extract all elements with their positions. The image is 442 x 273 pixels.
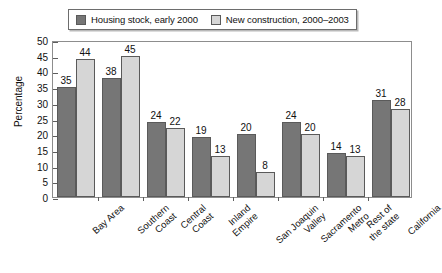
- bar-housing-stock: [372, 100, 391, 197]
- legend-label-new-construction: New construction, 2000–2003: [226, 14, 349, 25]
- y-axis-title: Percentage: [13, 62, 24, 142]
- x-axis-label: Bay Area: [90, 202, 126, 236]
- bar-new-construction: [391, 109, 410, 197]
- x-axis-label: California: [405, 202, 442, 237]
- x-axis-label: SouthernCoast: [135, 202, 178, 244]
- x-axis-label: Rest ofthe state: [359, 202, 401, 243]
- bar-item: 35: [57, 87, 76, 197]
- x-axis-category-labels: Bay AreaSouthernCoastCentralCoastInlandE…: [52, 200, 412, 272]
- bar-item: 14: [327, 153, 346, 197]
- bar-group: 3128: [368, 100, 413, 197]
- y-tick-label: 50: [27, 36, 48, 47]
- bar-item: 22: [166, 128, 185, 197]
- bar-item: 45: [121, 56, 140, 197]
- bar-housing-stock: [192, 137, 211, 197]
- bar-item: 28: [391, 109, 410, 197]
- bar-value-label: 44: [76, 47, 95, 58]
- bar-item: 13: [211, 156, 230, 197]
- legend-entry-housing-stock: Housing stock, early 2000: [76, 14, 198, 25]
- y-tick-label: 15: [27, 146, 48, 157]
- bar-item: 19: [192, 137, 211, 197]
- bar-value-label: 35: [57, 75, 76, 86]
- bar-value-label: 20: [301, 122, 320, 133]
- bar-housing-stock: [327, 153, 346, 197]
- y-tick-label: 0: [27, 193, 48, 204]
- bar-new-construction: [166, 128, 185, 197]
- bar-group: 2420: [278, 122, 323, 197]
- y-tick-label: 40: [27, 67, 48, 78]
- y-tick-label: 20: [27, 130, 48, 141]
- bar-new-construction: [346, 156, 365, 197]
- x-axis-label: San JoaquinValley: [273, 202, 327, 254]
- bar-item: 8: [256, 172, 275, 197]
- bar-value-label: 14: [327, 141, 346, 152]
- y-tick-label: 25: [27, 115, 48, 126]
- bar-item: 24: [282, 122, 301, 197]
- bar-new-construction: [76, 59, 95, 197]
- x-axis-label: InlandEmpire: [223, 202, 260, 238]
- bar-value-label: 22: [166, 116, 185, 127]
- bar-value-label: 13: [346, 144, 365, 155]
- bar-new-construction: [301, 134, 320, 197]
- bar-value-label: 20: [237, 122, 256, 133]
- y-tick-label: 45: [27, 52, 48, 63]
- bar-item: 20: [301, 134, 320, 197]
- bar-value-label: 24: [147, 110, 166, 121]
- bar-housing-stock: [147, 122, 166, 197]
- bar-housing-stock: [237, 134, 256, 197]
- bar-value-label: 38: [102, 66, 121, 77]
- bar-housing-stock: [57, 87, 76, 197]
- bar-new-construction: [256, 172, 275, 197]
- legend-swatch-icon-housing-stock: [76, 15, 86, 25]
- bar-group: 3544: [53, 59, 98, 197]
- bar-item: 38: [102, 78, 121, 197]
- bar-group: 3845: [98, 56, 143, 197]
- bar-item: 24: [147, 122, 166, 197]
- bar-series-container: 3544384524221913208242014133128: [53, 42, 411, 197]
- bar-value-label: 8: [256, 160, 275, 171]
- x-axis-label: CentralCoast: [178, 202, 215, 239]
- y-tick-label: 30: [27, 99, 48, 110]
- y-tick-label: 5: [27, 177, 48, 188]
- bar-item: 44: [76, 59, 95, 197]
- bar-value-label: 45: [121, 44, 140, 55]
- y-tick-label: 10: [27, 162, 48, 173]
- legend-swatch-icon-new-construction: [211, 15, 221, 25]
- bar-group: 2422: [143, 122, 188, 197]
- bar-value-label: 31: [372, 88, 391, 99]
- legend-label-housing-stock: Housing stock, early 2000: [91, 14, 198, 25]
- plot-area: 05101520253035404550 3544384524221913208…: [52, 41, 412, 198]
- chart-legend: Housing stock, early 2000 New constructi…: [68, 9, 357, 30]
- bar-new-construction: [211, 156, 230, 197]
- bar-value-label: 28: [391, 97, 410, 108]
- bar-group: 1413: [323, 153, 368, 197]
- bar-new-construction: [121, 56, 140, 197]
- legend-entry-new-construction: New construction, 2000–2003: [211, 14, 349, 25]
- bar-value-label: 13: [211, 144, 230, 155]
- bar-value-label: 24: [282, 110, 301, 121]
- bar-housing-stock: [102, 78, 121, 197]
- bar-item: 13: [346, 156, 365, 197]
- bar-value-label: 19: [192, 125, 211, 136]
- bar-housing-stock: [282, 122, 301, 197]
- bar-item: 31: [372, 100, 391, 197]
- bar-group: 1913: [188, 137, 233, 197]
- y-tick-label: 35: [27, 83, 48, 94]
- bar-group: 208: [233, 134, 278, 197]
- bar-item: 20: [237, 134, 256, 197]
